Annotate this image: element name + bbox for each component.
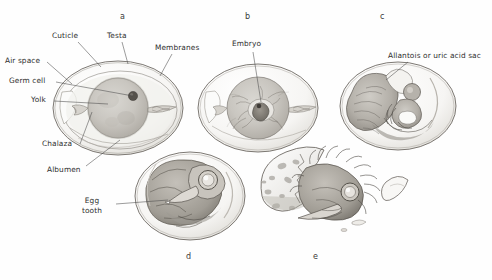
leader-membranes: [160, 54, 172, 76]
panel-letter-a: a: [120, 12, 125, 21]
panel-a-artwork: [53, 61, 183, 155]
label-chalaza: Chalaza: [42, 139, 72, 149]
panel-b-artwork: [198, 64, 318, 152]
panel-e-artwork: [261, 146, 408, 232]
label-cuticle: Cuticle: [52, 31, 78, 41]
label-albumen: Albumen: [47, 165, 81, 175]
leader-cuticle: [78, 42, 101, 67]
panel-letter-c: c: [380, 12, 385, 21]
leader-air-space: [47, 62, 72, 84]
panel-c-artwork: [340, 62, 456, 150]
panel-letter-b: b: [245, 12, 250, 21]
label-allantois: Allantois or uric acid sac: [388, 51, 481, 61]
label-membranes: Membranes: [155, 43, 199, 53]
label-testa: Testa: [107, 31, 127, 41]
label-yolk: Yolk: [31, 95, 46, 105]
panel-letter-e: e: [313, 252, 318, 261]
panel-d-artwork: [135, 152, 245, 240]
label-germ-cell: Germ cell: [9, 76, 45, 86]
label-air-space: Air space: [5, 56, 40, 66]
label-egg-tooth: Egg tooth: [82, 196, 102, 216]
panel-letter-d: d: [186, 252, 191, 261]
label-embryo: Embryo: [232, 39, 261, 49]
egg-development-figure: a b c d e Cuticle Testa Membranes Air sp…: [0, 0, 492, 280]
